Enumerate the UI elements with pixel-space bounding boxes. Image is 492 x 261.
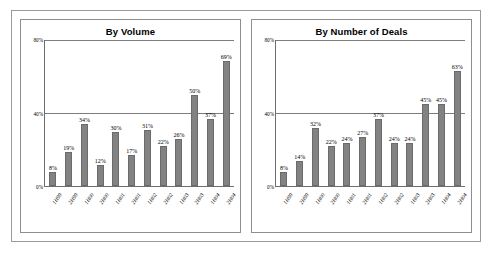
bar-value-label: 27% [357, 130, 368, 136]
bar-slot: 30% [108, 40, 124, 186]
bar-value-label: 45% [436, 97, 447, 103]
bar [112, 132, 119, 187]
bar [312, 128, 319, 186]
bar-value-label: 31% [142, 123, 153, 129]
y-axis: 0%40%80% [256, 40, 275, 187]
bar [375, 119, 382, 187]
bar-value-label: 37% [373, 112, 384, 118]
x-tick-slot: 2H99 [60, 198, 76, 232]
bar-slot: 22% [323, 40, 339, 186]
bar-slot: 24% [386, 40, 402, 186]
x-tick-slot: 2H99 [291, 198, 307, 232]
x-tick-slot: 1H02 [370, 198, 386, 232]
bar-value-label: 69% [221, 54, 232, 60]
bar-slot: 45% [418, 40, 434, 186]
bar-value-label: 8% [49, 165, 57, 171]
bar-value-label: 45% [420, 97, 431, 103]
bar [81, 124, 88, 186]
bar-slot: 22% [155, 40, 171, 186]
bar-slot: 31% [140, 40, 156, 186]
x-tick-slot: 1H01 [338, 198, 354, 232]
bar-slot: 17% [124, 40, 140, 186]
x-tick-slot: 2H01 [123, 198, 139, 232]
plot-area: 0%40%80%8%19%34%12%30%17%31%22%26%50%37%… [25, 40, 234, 198]
x-tick-slot: 1H04 [202, 198, 218, 232]
bar [280, 172, 287, 187]
bar [438, 104, 445, 186]
bar-slot: 12% [92, 40, 108, 186]
bar [49, 172, 56, 187]
bar-slot: 50% [187, 40, 203, 186]
x-tick-slot: 2H04 [218, 198, 234, 232]
bar-slot: 45% [434, 40, 450, 186]
y-tick-label: 40% [264, 111, 274, 117]
bar [207, 119, 214, 187]
bar [175, 139, 182, 186]
bar [160, 146, 167, 186]
bar-slot: 8% [45, 40, 61, 186]
bar [223, 61, 230, 187]
bar [128, 155, 135, 186]
y-tick-label: 40% [33, 111, 43, 117]
y-tick-label: 80% [33, 37, 43, 43]
bar [328, 146, 335, 186]
bar [97, 165, 104, 187]
bar-slot: 37% [203, 40, 219, 186]
bar-value-label: 8% [280, 165, 288, 171]
figure-page: By Volume0%40%80%8%19%34%12%30%17%31%22%… [0, 0, 492, 261]
bar-slot: 37% [371, 40, 387, 186]
x-tick-slot: 2H01 [354, 198, 370, 232]
bar [65, 152, 72, 187]
bar-value-label: 37% [205, 112, 216, 118]
chart-panel-by-number-of-deals: By Number of Deals0%40%80%8%14%32%22%24%… [251, 19, 472, 233]
bar [144, 130, 151, 187]
chart-title: By Volume [21, 20, 240, 40]
bar-slot: 24% [339, 40, 355, 186]
chart-panels-container: By Volume0%40%80%8%19%34%12%30%17%31%22%… [11, 10, 481, 242]
plot-box: 8%14%32%22%24%27%37%24%24%45%45%63% [275, 40, 465, 187]
bar-slot: 24% [402, 40, 418, 186]
x-axis: 1H992H991H002H001H012H011H022H021H032H03… [44, 198, 234, 232]
plot-area: 0%40%80%8%14%32%22%24%27%37%24%24%45%45%… [256, 40, 465, 198]
bar [454, 71, 461, 186]
bar-value-label: 19% [63, 145, 74, 151]
y-tick-label: 80% [264, 37, 274, 43]
x-tick-slot: 1H03 [171, 198, 187, 232]
bar-value-label: 12% [95, 158, 106, 164]
bar-value-label: 63% [452, 64, 463, 70]
bar-value-label: 22% [326, 139, 337, 145]
x-tick-slot: 2H00 [91, 198, 107, 232]
bar [391, 143, 398, 187]
bar-slot: 69% [218, 40, 234, 186]
bar-value-label: 14% [294, 154, 305, 160]
y-axis: 0%40%80% [25, 40, 44, 187]
bar-series: 8%14%32%22%24%27%37%24%24%45%45%63% [276, 40, 465, 186]
y-tick-label: 0% [36, 184, 43, 190]
bar-value-label: 50% [189, 88, 200, 94]
x-tick-slot: 1H03 [402, 198, 418, 232]
bar-slot: 63% [449, 40, 465, 186]
bar-slot: 8% [276, 40, 292, 186]
x-tick-slot: 1H01 [107, 198, 123, 232]
bar-value-label: 34% [79, 117, 90, 123]
x-tick-slot: 1H02 [139, 198, 155, 232]
bar [296, 161, 303, 187]
bar-series: 8%19%34%12%30%17%31%22%26%50%37%69% [45, 40, 234, 186]
y-tick-label: 0% [267, 184, 274, 190]
bar-value-label: 30% [110, 125, 121, 131]
bar-slot: 26% [171, 40, 187, 186]
x-tick-slot: 1H99 [44, 198, 60, 232]
bar [359, 137, 366, 186]
x-axis: 1H992H991H002H001H012H011H022H021H032H03… [275, 198, 465, 232]
x-tick-slot: 1H99 [275, 198, 291, 232]
x-tick-slot: 1H04 [433, 198, 449, 232]
x-tick-slot: 2H00 [322, 198, 338, 232]
bar-slot: 32% [308, 40, 324, 186]
x-tick-slot: 1H00 [307, 198, 323, 232]
bar-value-label: 17% [126, 148, 137, 154]
bar-slot: 34% [77, 40, 93, 186]
bar-value-label: 24% [404, 136, 415, 142]
x-tick-slot: 2H03 [186, 198, 202, 232]
bar-slot: 27% [355, 40, 371, 186]
x-tick-slot: 2H02 [386, 198, 402, 232]
